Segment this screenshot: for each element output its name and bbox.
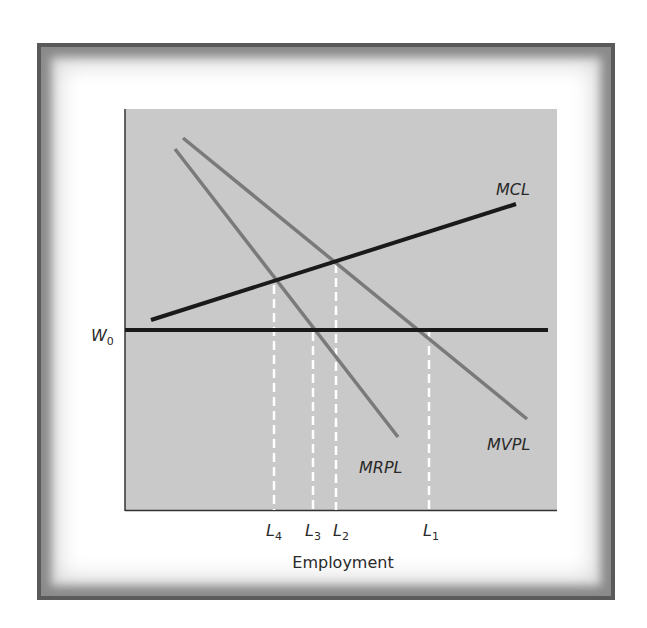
- x-axis-title: Employment: [292, 553, 393, 572]
- mrpl-label: MRPL: [359, 458, 402, 477]
- mcl-label: MCL: [496, 180, 530, 199]
- l3-label: L3: [305, 521, 321, 543]
- mvpl-label: MVPL: [487, 435, 530, 454]
- l1-label: L1: [423, 521, 439, 543]
- l2-label: L2: [333, 521, 349, 543]
- l4-label: L4: [266, 521, 282, 543]
- labor-market-chart: MCL MVPL MRPL W0 L4 L3 L2 L1 Employment: [0, 0, 647, 628]
- w0-label: W0: [91, 326, 114, 348]
